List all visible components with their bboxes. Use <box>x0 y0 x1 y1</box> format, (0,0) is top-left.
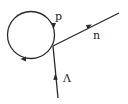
label-n: n <box>93 29 100 42</box>
label-p: p <box>55 10 62 23</box>
feynman-diagram: p n Λ <box>0 0 128 104</box>
incoming-line-lambda <box>53 46 58 98</box>
label-lambda: Λ <box>62 72 72 85</box>
incoming-arrow-icon <box>53 74 58 81</box>
loop-line-p <box>8 12 55 59</box>
outgoing-line-n <box>53 13 119 46</box>
